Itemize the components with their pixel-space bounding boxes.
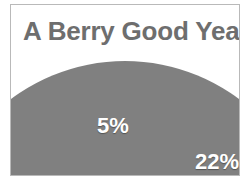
screenshot-root: A Berry Good Year 5% 22% xyxy=(0,0,252,180)
chart-frame[interactable]: A Berry Good Year 5% 22% xyxy=(10,4,240,176)
pie-slice-label-22: 22% xyxy=(195,149,239,175)
chart-title-row[interactable]: A Berry Good Year xyxy=(11,5,239,57)
pie-plot-area[interactable]: 5% 22% xyxy=(11,57,239,175)
pie-slice-label-5: 5% xyxy=(97,113,129,139)
chart-title[interactable]: A Berry Good Year xyxy=(23,18,240,44)
